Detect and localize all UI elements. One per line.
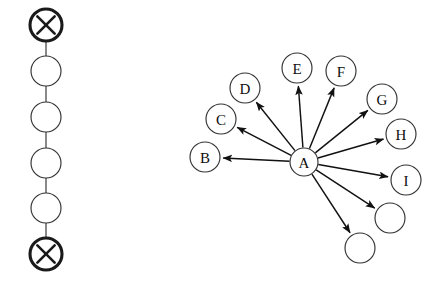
chain-terminal-node[interactable]	[30, 238, 62, 270]
node-circle	[206, 104, 236, 134]
node-circle	[326, 56, 356, 86]
node-circle	[31, 193, 61, 223]
star-node-A[interactable]: A	[290, 148, 318, 176]
node-circle	[31, 56, 61, 86]
star-edge-A-to-F	[309, 88, 334, 149]
node-circle	[230, 73, 260, 103]
star-edge-A-to-unlabeled-2	[312, 174, 350, 233]
star-node-B[interactable]: B	[190, 142, 220, 172]
node-circle	[367, 84, 397, 114]
chain-node[interactable]	[31, 193, 61, 223]
node-circle	[190, 142, 220, 172]
star-node-G[interactable]: G	[367, 84, 397, 114]
star-edge-A-to-E	[298, 86, 303, 147]
node-circle	[31, 102, 61, 132]
node-circle	[386, 119, 416, 149]
chain-node[interactable]	[31, 56, 61, 86]
star-node-E[interactable]: E	[282, 53, 312, 83]
star-node-C[interactable]: C	[206, 104, 236, 134]
star-node-D[interactable]: D	[230, 73, 260, 103]
diagram-canvas: ABCDEFGHI	[0, 0, 445, 289]
star-edge-A-to-C	[237, 127, 291, 155]
chain-node[interactable]	[31, 102, 61, 132]
star-node-unlabeled-2[interactable]	[345, 233, 375, 263]
chain-node[interactable]	[31, 148, 61, 178]
star-node-H[interactable]: H	[386, 119, 416, 149]
chain-terminal-node[interactable]	[30, 9, 62, 41]
star-node-I[interactable]: I	[391, 165, 421, 195]
node-circle	[345, 233, 375, 263]
star-node-F[interactable]: F	[326, 56, 356, 86]
figure-root: ABCDEFGHI	[0, 0, 445, 289]
star-edge-A-to-B	[223, 158, 289, 161]
node-circle	[375, 203, 405, 233]
star-edge-A-to-I	[318, 165, 388, 177]
node-circle	[391, 165, 421, 195]
star-edge-A-to-unlabeled-1	[316, 170, 375, 208]
node-circle	[290, 148, 318, 176]
node-circle	[31, 148, 61, 178]
star-edge-A-to-D	[256, 102, 295, 150]
node-circle	[282, 53, 312, 83]
star-node-unlabeled-1[interactable]	[375, 203, 405, 233]
